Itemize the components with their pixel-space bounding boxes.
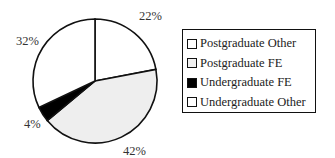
legend-label: Postgraduate FE	[200, 56, 282, 71]
legend-swatch-icon	[187, 97, 197, 107]
chart-legend: Postgraduate Other Postgraduate FE Under…	[182, 29, 316, 113]
slice-label-postgraduate-fe: 42%	[123, 145, 146, 158]
slice-label-postgraduate-other: 22%	[139, 10, 162, 23]
legend-label: Postgraduate Other	[200, 36, 296, 51]
legend-item-postgraduate-fe: Postgraduate FE	[187, 54, 315, 74]
legend-label: Undergraduate FE	[200, 75, 292, 90]
legend-swatch-icon	[187, 39, 197, 49]
legend-label: Undergraduate Other	[200, 95, 306, 110]
slice-label-undergraduate-fe: 4%	[24, 118, 41, 131]
slice-label-undergraduate-other: 32%	[16, 35, 39, 48]
legend-swatch-icon	[187, 78, 197, 88]
legend-item-postgraduate-other: Postgraduate Other	[187, 34, 315, 54]
legend-item-undergraduate-fe: Undergraduate FE	[187, 73, 315, 93]
pie-chart	[0, 0, 180, 158]
legend-swatch-icon	[187, 58, 197, 68]
legend-item-undergraduate-other: Undergraduate Other	[187, 93, 315, 113]
